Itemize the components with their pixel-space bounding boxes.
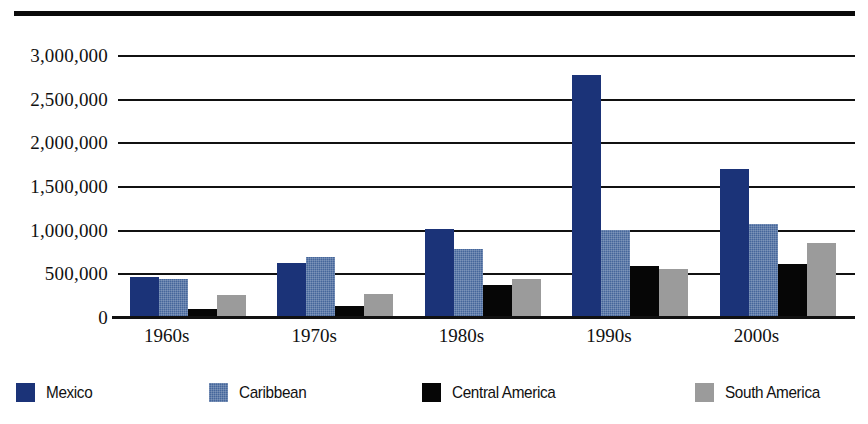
legend-swatch-icon xyxy=(209,383,228,402)
legend-item-label: Caribbean xyxy=(239,383,306,402)
chart-legend: MexicoCaribbeanCentral AmericaSouth Amer… xyxy=(16,378,852,406)
bar-caribbean-1980s[interactable] xyxy=(454,249,483,317)
bar-group-bars xyxy=(572,55,688,317)
legend-swatch-icon xyxy=(422,383,441,402)
y-axis-tick-label: 2,000,000 xyxy=(30,133,108,152)
bar-group-bars xyxy=(720,55,836,317)
y-axis-tick-label: 3,000,000 xyxy=(30,46,108,65)
y-axis-tick-label: 1,500,000 xyxy=(30,177,108,196)
plot-area xyxy=(118,55,855,317)
bar-group-bars xyxy=(277,55,393,317)
x-axis-tick-label-1960s: 1960s xyxy=(118,322,265,352)
x-axis-baseline xyxy=(112,316,855,319)
x-axis-tick-label-1990s: 1990s xyxy=(560,322,707,352)
bar-caribbean-2000s[interactable] xyxy=(749,224,778,317)
legend-swatch-icon xyxy=(16,383,35,402)
y-axis-tick-label: 1,000,000 xyxy=(30,220,108,239)
bar-groups xyxy=(118,55,855,317)
bar-central-america-1980s[interactable] xyxy=(483,285,512,317)
bar-mexico-1990s[interactable] xyxy=(572,75,601,317)
x-axis-tick-label-2000s: 2000s xyxy=(708,322,855,352)
bar-south-america-1960s[interactable] xyxy=(217,295,246,317)
bar-south-america-1980s[interactable] xyxy=(512,279,541,317)
bar-group-1970s xyxy=(265,55,412,317)
bar-mexico-1970s[interactable] xyxy=(277,263,306,317)
bar-group-1960s xyxy=(118,55,265,317)
bar-group-1980s xyxy=(413,55,560,317)
bar-south-america-1990s[interactable] xyxy=(659,269,688,317)
legend-item-label: Mexico xyxy=(46,383,92,402)
y-axis-tick-label: 0 xyxy=(98,308,108,327)
bar-caribbean-1990s[interactable] xyxy=(601,230,630,317)
legend-item-mexico[interactable]: Mexico xyxy=(16,378,209,406)
bar-group-bars xyxy=(130,55,246,317)
y-axis-tick-label: 500,000 xyxy=(45,264,108,283)
bar-south-america-2000s[interactable] xyxy=(807,243,836,317)
bar-mexico-1960s[interactable] xyxy=(130,277,159,317)
legend-swatch-icon xyxy=(695,383,714,402)
bar-mexico-1980s[interactable] xyxy=(425,229,454,317)
bar-group-1990s xyxy=(560,55,707,317)
legend-item-central-america[interactable]: Central America xyxy=(422,378,695,406)
bar-caribbean-1970s[interactable] xyxy=(306,257,335,317)
y-axis-tick-label: 2,500,000 xyxy=(30,89,108,108)
bar-south-america-1970s[interactable] xyxy=(364,294,393,317)
legend-item-label: Central America xyxy=(452,383,555,402)
bar-group-bars xyxy=(425,55,541,317)
x-axis-tick-labels: 1960s1970s1980s1990s2000s xyxy=(118,322,855,352)
top-divider-rule xyxy=(14,11,855,16)
bar-mexico-2000s[interactable] xyxy=(720,169,749,317)
bar-central-america-1990s[interactable] xyxy=(630,266,659,317)
x-axis-tick-label-1970s: 1970s xyxy=(265,322,412,352)
bar-central-america-2000s[interactable] xyxy=(778,264,807,317)
bar-caribbean-1960s[interactable] xyxy=(159,279,188,317)
legend-item-south-america[interactable]: South America xyxy=(695,378,845,406)
legend-item-caribbean[interactable]: Caribbean xyxy=(209,378,422,406)
bar-chart-figure: 3,000,0002,500,0002,000,0001,500,0001,00… xyxy=(0,0,868,424)
legend-item-label: South America xyxy=(725,383,820,402)
bar-group-2000s xyxy=(708,55,855,317)
y-axis-tick-labels: 3,000,0002,500,0002,000,0001,500,0001,00… xyxy=(0,55,108,317)
x-axis-tick-label-1980s: 1980s xyxy=(413,322,560,352)
